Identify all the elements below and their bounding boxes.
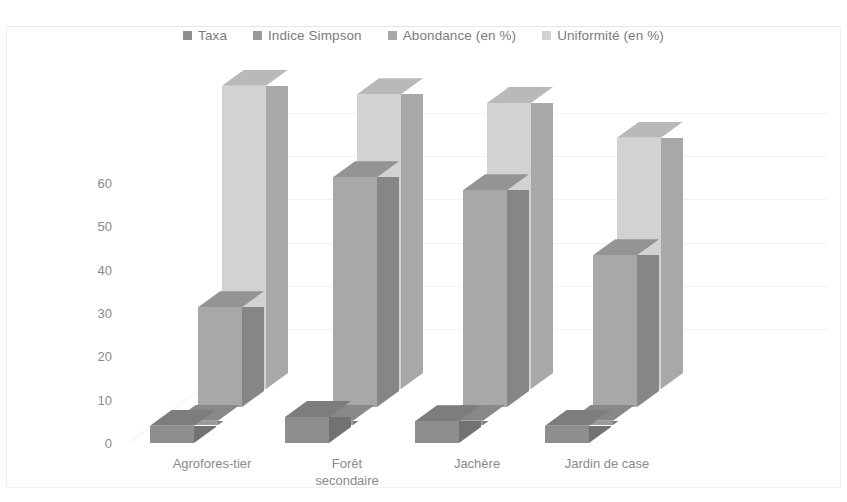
bar-side-face <box>401 94 423 389</box>
chart-container: Taxa Indice Simpson Abondance (en %) Uni… <box>0 0 847 502</box>
bar-front-face <box>463 190 507 407</box>
bar-top-face <box>487 87 553 103</box>
bar-front-face <box>593 255 637 407</box>
bar-side-face <box>353 421 375 425</box>
plot-area: 0102030405060 Agrofores-tierForêt second… <box>0 0 847 502</box>
bar-front-face <box>198 307 242 407</box>
bar-side-face <box>266 86 288 389</box>
bar-front-face <box>150 426 194 443</box>
bar-side-face <box>483 421 505 425</box>
bar-side-face <box>377 177 399 407</box>
bar-taxa-jachère <box>415 421 459 443</box>
bar-side-face <box>194 426 216 443</box>
bar-top-face <box>617 122 683 138</box>
bars-layer: Agrofores-tierForêt secondaireJachèreJar… <box>0 0 847 502</box>
bar-side-face <box>589 426 611 443</box>
bar-front-face <box>545 426 589 443</box>
bar-abondance-en--forêt-secondaire <box>333 177 377 407</box>
bar-side-face <box>329 417 351 443</box>
x-axis-category-label: Jardin de case <box>565 455 650 472</box>
bar-abondance-en--agrofores-tier <box>198 307 242 407</box>
bar-taxa-forêt-secondaire <box>285 417 329 443</box>
bar-front-face <box>333 177 377 407</box>
bar-abondance-en--jardin-de-case <box>593 255 637 407</box>
bar-side-face <box>661 138 683 389</box>
x-axis-category-label: Agrofores-tier <box>173 455 252 472</box>
bar-side-face <box>507 190 529 407</box>
bar-top-face <box>357 78 423 94</box>
bar-side-face <box>242 307 264 407</box>
bar-side-face <box>613 421 635 425</box>
bar-front-face <box>285 417 329 443</box>
bar-front-face <box>415 421 459 443</box>
bar-top-face <box>222 70 288 86</box>
bar-taxa-jardin-de-case <box>545 426 589 443</box>
x-axis-category-label: Forêt secondaire <box>315 455 379 489</box>
bar-side-face <box>637 255 659 407</box>
bar-side-face <box>459 421 481 443</box>
x-axis-category-label: Jachère <box>454 455 500 472</box>
bar-taxa-agrofores-tier <box>150 426 194 443</box>
bar-side-face <box>531 103 553 389</box>
bar-side-face <box>218 421 240 425</box>
bar-abondance-en--jachère <box>463 190 507 407</box>
